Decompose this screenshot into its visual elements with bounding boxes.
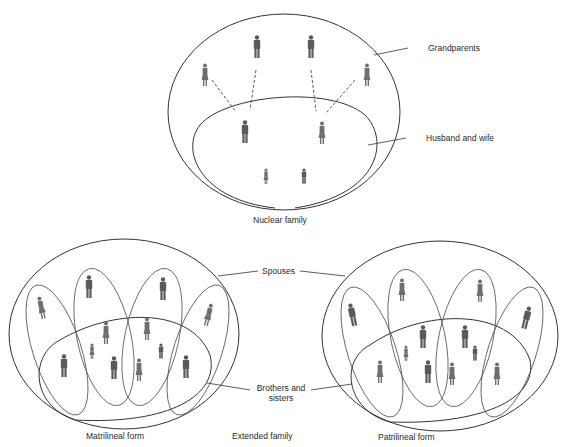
wife-icon (377, 361, 384, 384)
wife-icon (319, 122, 326, 145)
husband-icon (61, 354, 67, 377)
brothers-and-sisters-line1: Brothers and (250, 383, 312, 393)
patrilineal-form (322, 241, 558, 431)
grandmother-icon (202, 64, 209, 87)
child-male-icon (159, 343, 163, 358)
husband-icon (183, 355, 189, 378)
spouses-label: Spouses (262, 266, 295, 276)
dash-link (250, 70, 256, 110)
spouses-outer-oval (9, 239, 239, 429)
sister-icon (36, 296, 47, 319)
siblings-leader-right (311, 384, 352, 390)
husband-icon (242, 120, 248, 143)
grandfather-icon (308, 35, 314, 58)
husband-icon (160, 277, 166, 300)
sibling-groups (13, 263, 242, 422)
wife-icon (477, 280, 484, 303)
wife-icon (494, 363, 501, 386)
nuclear-family (168, 14, 408, 210)
grandfather-icon (254, 35, 260, 58)
sister-icon (136, 359, 143, 382)
sister-icon (144, 318, 151, 341)
child-male-icon (302, 168, 306, 183)
brother-icon (462, 325, 468, 348)
child-female-icon (90, 344, 95, 360)
husband-wife-leader (368, 138, 406, 145)
sister-icon (203, 303, 215, 326)
dash-link (326, 80, 355, 113)
brothers-and-sisters-line2: sisters (250, 393, 312, 403)
extended-family-caption: Extended family (232, 431, 292, 441)
nuclear-family-caption: Nuclear family (253, 215, 307, 225)
wife-icon (449, 363, 456, 386)
husband-icon (86, 275, 92, 298)
husband-icon (111, 356, 117, 379)
dash-link (212, 80, 236, 112)
dash-link (311, 70, 316, 111)
grandparents-leader (374, 48, 408, 55)
patrilineal-form-caption: Patrilineal form (378, 432, 435, 442)
brother-icon (347, 303, 358, 327)
sister-icon (103, 322, 110, 345)
spouses-leader-left (218, 271, 258, 276)
brother-icon (521, 306, 533, 330)
matrilineal-form-caption: Matrilineal form (86, 431, 144, 441)
child-male-icon (473, 345, 477, 360)
brother-icon (425, 360, 431, 383)
husband-and-wife-label: Husband and wife (426, 133, 494, 143)
husband-wife-oval (193, 97, 377, 208)
siblings-leader-left (207, 383, 250, 390)
child-female-icon (404, 346, 409, 362)
wife-icon (399, 279, 406, 302)
brothers-and-sisters-label: Brothers and sisters (250, 383, 312, 403)
child-female-icon (264, 169, 269, 185)
grandmother-icon (364, 64, 371, 87)
spouses-outer-oval (322, 241, 558, 431)
grandparents-oval (168, 14, 400, 210)
spouses-leader-right (300, 271, 345, 276)
brother-icon (420, 325, 426, 348)
matrilineal-form (9, 239, 242, 429)
grandparents-label: Grandparents (428, 43, 480, 53)
